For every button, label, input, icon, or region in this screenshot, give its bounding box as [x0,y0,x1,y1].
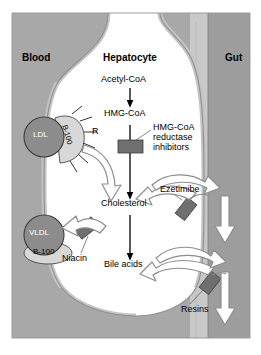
node-label-bile-acids: Bile acids [104,259,143,269]
region-label-hepatocyte: Hepatocyte [103,52,157,63]
node-label-cholesterol: Cholesterol [101,198,147,208]
node-label-acetyl-coa: Acetyl-CoA [101,74,146,84]
particle-label-vldl: VLDL [29,229,49,238]
drug-label-statins-line3: inhibitors [153,142,195,152]
drug-label-statins-line2: reductase [153,132,195,142]
particle-label-ldl: LDL [33,131,48,140]
figure-panel: Blood Hepatocyte Gut Acetyl-CoA HMG-CoA … [0,0,261,355]
drug-label-statins: HMG-CoA reductase inhibitors [153,122,195,152]
node-label-hmg-coa: HMG-CoA [104,108,146,118]
region-label-gut: Gut [225,52,242,63]
drug-label-ezetimibe: Ezetimibe [160,184,200,194]
drug-label-niacin: Niacin [62,253,87,263]
region-label-blood: Blood [22,52,50,63]
receptor-label: R [92,126,99,136]
particle-label-vldl-apo: B-100 [33,248,54,257]
drug-label-statins-line1: HMG-CoA [153,122,195,132]
drug-label-resins: Resins [181,304,209,314]
statin-block-bar [118,140,143,153]
